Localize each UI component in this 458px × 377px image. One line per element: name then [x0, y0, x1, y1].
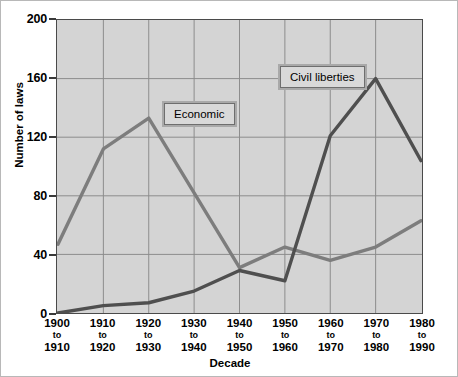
y-tick-mark [49, 313, 56, 315]
y-tick-label: 80 [33, 189, 47, 203]
x-tick-label: 1980to1990 [393, 317, 451, 354]
callout-civil-liberties-label: Civil liberties [280, 66, 365, 88]
callout-civil-liberties: Civil liberties [278, 64, 367, 90]
y-tick-label: 200 [27, 12, 47, 26]
y-tick-label: 160 [27, 71, 47, 85]
callout-economic-label: Economic [164, 103, 235, 125]
x-tick-start: 1980 [393, 317, 451, 330]
y-axis-ticks: 04080120160200 [1, 19, 56, 314]
callout-economic: Economic [162, 101, 237, 127]
y-tick-mark [49, 77, 56, 79]
plot-area [56, 19, 423, 314]
y-axis-title: Number of laws [13, 60, 25, 190]
y-tick-label: 120 [27, 130, 47, 144]
series-lines [57, 20, 422, 313]
y-tick-mark [49, 136, 56, 138]
y-tick-label: 40 [33, 248, 47, 262]
x-tick-connector: to [393, 330, 451, 341]
x-tick-end: 1990 [393, 341, 451, 354]
y-tick-mark [49, 18, 56, 20]
y-tick-mark [49, 195, 56, 197]
chart-figure: 04080120160200 Number of laws 1900to1910… [0, 0, 458, 377]
x-axis-title: Decade [1, 357, 458, 369]
y-tick-mark [49, 254, 56, 256]
